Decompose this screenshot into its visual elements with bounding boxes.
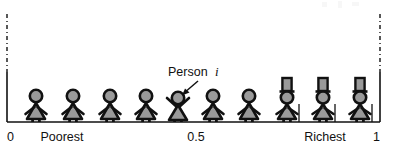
person-figure-wealthy xyxy=(313,78,336,122)
person-figure xyxy=(26,90,47,122)
axis-tick-label-richest: Richest xyxy=(304,130,346,144)
axis-tick-label-1: 1 xyxy=(373,130,380,144)
top-hat-icon xyxy=(280,78,295,92)
person-figure xyxy=(136,90,157,122)
axis-tick-label-half: 0.5 xyxy=(187,130,204,144)
top-hat-icon xyxy=(316,78,331,92)
person-figure xyxy=(203,90,224,122)
top-hat-icon xyxy=(353,78,368,92)
person-figure-highlighted xyxy=(167,92,189,122)
person-figure xyxy=(63,90,84,122)
top-crop-artifact xyxy=(322,1,359,8)
axis-tick-label-poorest: Poorest xyxy=(40,130,84,144)
figure-canvas: 0 Poorest 0.5 Richest 1 xyxy=(0,0,398,146)
person-figure-wealthy xyxy=(277,78,300,122)
callout-label-symbol: i xyxy=(215,64,219,79)
callout-label-text: Person xyxy=(168,65,208,79)
wealth-distribution-figure: 0 Poorest 0.5 Richest 1 xyxy=(0,0,398,146)
person-figure xyxy=(239,90,260,122)
axis-tick-label-0: 0 xyxy=(7,130,14,144)
person-figure xyxy=(100,90,121,122)
person-figure-wealthy xyxy=(350,78,373,122)
